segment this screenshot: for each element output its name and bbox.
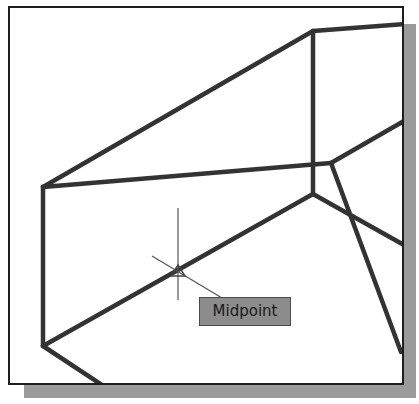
edge-top[interactable] — [313, 24, 404, 31]
edge-right-steep[interactable] — [331, 163, 401, 352]
edge-bottom-left[interactable] — [43, 346, 102, 385]
wireframe-drawing[interactable] — [0, 0, 419, 404]
edge-middle-horizontal[interactable] — [43, 163, 331, 187]
drawing-canvas[interactable]: Midpoint — [0, 0, 419, 404]
edge-right-upper[interactable] — [331, 121, 404, 163]
snap-tooltip: Midpoint — [199, 297, 291, 326]
edge-top-left-diagonal[interactable] — [43, 31, 313, 187]
crosshair-cursor — [152, 208, 222, 300]
